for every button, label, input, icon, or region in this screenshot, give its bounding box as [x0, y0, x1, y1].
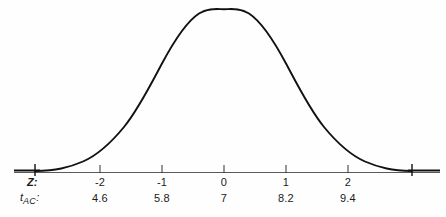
t-axis-name: tAC:	[20, 191, 39, 206]
t-tick-label: 5.8	[154, 192, 170, 204]
t-tick-label: 7	[221, 192, 227, 204]
t-tick-label: 4.6	[92, 192, 108, 204]
t-tick-label: 8.2	[278, 192, 294, 204]
t-axis-name-suffix: :	[36, 191, 39, 203]
t-axis-name-subscript: AC	[23, 196, 36, 206]
bell-curve-path	[35, 9, 412, 171]
z-tick-label: -2	[95, 176, 105, 188]
t-tick-label: 9.4	[340, 192, 356, 204]
z-axis-name: Z:	[27, 176, 37, 188]
z-tick-label: 0	[221, 176, 227, 188]
z-tick-label: 2	[345, 176, 351, 188]
z-tick-label: 1	[283, 176, 289, 188]
z-tick-label: -1	[157, 176, 167, 188]
normal-distribution-figure: Z: -2 -1 0 1 2 tAC: 4.6 5.8 7 8.2 9.4	[0, 0, 446, 217]
